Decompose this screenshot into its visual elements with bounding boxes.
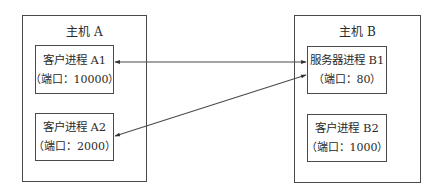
process-b2-port: （端口：1000） bbox=[306, 140, 389, 156]
process-b1-box: 服务器进程 B1 （端口：80） bbox=[307, 46, 387, 94]
process-a2-box: 客户进程 A2 （端口：2000） bbox=[35, 113, 114, 161]
process-a1-port: （端口：10000） bbox=[30, 72, 120, 88]
process-b1-name: 服务器进程 B1 bbox=[310, 52, 384, 68]
process-a1-box: 客户进程 A1 （端口：10000） bbox=[35, 45, 114, 94]
process-b2-name: 客户进程 B2 bbox=[315, 120, 378, 136]
host-b-title: 主机 B bbox=[295, 22, 420, 39]
process-b1-port: （端口：80） bbox=[313, 72, 382, 88]
process-a1-name: 客户进程 A1 bbox=[43, 52, 106, 68]
process-a2-port: （端口：2000） bbox=[33, 139, 116, 155]
host-a-title: 主机 A bbox=[23, 22, 146, 39]
process-a2-name: 客户进程 A2 bbox=[43, 119, 106, 135]
process-b2-box: 客户进程 B2 （端口：1000） bbox=[307, 114, 387, 162]
